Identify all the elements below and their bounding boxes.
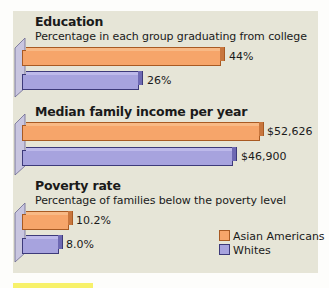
education-subtitle: Percentage in each group graduating from…	[35, 30, 307, 43]
income-value-asian-americans: $52,626	[267, 125, 313, 138]
income-title: Median family income per year	[35, 104, 247, 119]
poverty-value-whites: 8.0%	[66, 238, 94, 251]
legend-item-asian-americans: Asian Americans	[219, 230, 325, 243]
poverty-subtitle: Percentage of families below the poverty…	[35, 194, 286, 207]
education-value-asian-americans: 44%	[229, 50, 253, 63]
income-bar-asian-americans	[22, 125, 260, 141]
education-value-whites: 26%	[147, 74, 171, 87]
legend-item-whites: Whites	[219, 244, 271, 257]
legend-label-asian-americans: Asian Americans	[233, 230, 325, 243]
income-bar-whites	[22, 150, 233, 166]
yellow-footer-strip	[13, 283, 93, 288]
legend-swatch-whites	[219, 244, 230, 255]
education-bar-asian-americans	[22, 50, 221, 66]
education-bar-whites	[22, 74, 139, 90]
legend-label-whites: Whites	[233, 244, 271, 257]
education-title: Education	[35, 14, 103, 29]
legend-swatch-asian-americans	[219, 230, 230, 241]
poverty-value-asian-americans: 10.2%	[76, 214, 111, 227]
poverty-bar-whites	[22, 238, 59, 254]
poverty-bar-asian-americans	[22, 214, 69, 230]
poverty-title: Poverty rate	[35, 178, 121, 193]
income-value-whites: $46,900	[241, 150, 287, 163]
